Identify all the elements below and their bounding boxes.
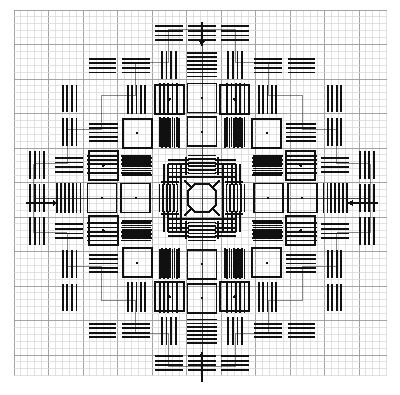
stitch-bar-horizontal (87, 172, 117, 174)
stitch-bar-horizontal (287, 168, 317, 170)
stitch-bar-vertical (233, 118, 235, 148)
stitch-bar-vertical (267, 85, 269, 115)
stitch-bar-horizontal (252, 157, 282, 159)
stitch-bar-horizontal (254, 336, 282, 338)
stitch-bar-vertical (237, 248, 239, 278)
stitch-bar-horizontal (121, 240, 151, 242)
stitch-bar-vertical (34, 151, 36, 179)
stitch-bar-vertical (176, 117, 178, 147)
stitch-bar-vertical (163, 164, 165, 185)
stitch-dot (102, 164, 105, 167)
stitch-bar-vertical (368, 217, 370, 245)
stitch-bar-vertical (239, 283, 241, 313)
stitch-bar-vertical (170, 317, 172, 345)
stitch-bar-horizontal (121, 172, 151, 174)
stitch-bar-horizontal (89, 271, 119, 273)
stitch-bar-horizontal (286, 271, 316, 273)
stitch-bar-vertical (231, 249, 233, 279)
stitch-bar-vertical (271, 85, 273, 115)
stitch-bar-vertical (165, 118, 167, 148)
stitch-bar-vertical (176, 211, 178, 232)
stitch-bar-horizontal (215, 163, 236, 165)
stitch-bar-vertical (43, 217, 45, 245)
stitch-bar-vertical (331, 284, 333, 312)
stitch-bar-vertical (364, 217, 366, 245)
stitch-bar-horizontal (89, 67, 117, 69)
stitch-dot (102, 229, 105, 232)
stitch-bar-vertical (239, 83, 241, 113)
stitch-bar-horizontal (253, 231, 283, 233)
stitch-bar-horizontal (121, 155, 151, 157)
stitch-bar-horizontal (253, 163, 283, 165)
stitch-bar-vertical (131, 85, 133, 115)
stitch-bar-vertical (331, 250, 333, 278)
stitch-bar-horizontal (122, 229, 152, 231)
stitch-bar-horizontal (168, 231, 189, 233)
stitch-dot (168, 295, 171, 298)
stitch-bar-horizontal (155, 369, 183, 371)
stitch-bar-vertical (275, 282, 277, 312)
stitch-bar-vertical (163, 283, 165, 313)
stitch-bar-vertical (244, 117, 246, 147)
stitch-bar-horizontal (89, 336, 117, 338)
stitch-bar-horizontal (122, 233, 152, 235)
stitch-bar-vertical (222, 164, 224, 185)
stitch-bar-vertical (226, 83, 228, 113)
stitch-bar-vertical (140, 85, 142, 115)
stitch-bar-vertical (231, 283, 233, 313)
stitch-bar-vertical (340, 284, 342, 312)
stitch-dot (168, 98, 171, 101)
stitch-bar-vertical (172, 83, 174, 113)
stitch-bar-horizontal (288, 58, 316, 60)
stitch-bar-vertical (167, 117, 169, 147)
stitch-bar-horizontal (221, 360, 249, 362)
stitch-bar-vertical (359, 217, 361, 245)
stitch-bar-horizontal (87, 240, 117, 242)
stitch-bar-horizontal (87, 168, 117, 170)
stitch-bar-horizontal (89, 258, 119, 260)
stitch-bar-vertical (229, 118, 231, 148)
stitch-bar-horizontal (215, 227, 236, 229)
stitch-bar-vertical (327, 250, 329, 278)
stitch-bar-horizontal (286, 267, 316, 269)
stitch-bar-vertical (373, 184, 375, 212)
stitch-bar-vertical (340, 118, 342, 146)
stitch-bar-horizontal (221, 25, 249, 27)
stitch-bar-vertical (180, 211, 182, 232)
stitch-bar-vertical (136, 282, 138, 312)
stitch-bar-vertical (224, 248, 226, 278)
stitch-bar-horizontal (253, 168, 283, 170)
stitch-bar-vertical (237, 51, 239, 79)
stitch-bar-vertical (227, 164, 229, 185)
stitch-bar-horizontal (254, 67, 282, 69)
stitch-bar-vertical (172, 249, 174, 279)
stitch-bar-vertical (258, 85, 260, 115)
stitch-bar-horizontal (221, 30, 249, 32)
stitch-bar-horizontal (287, 159, 317, 161)
stitch-bar-vertical (144, 282, 146, 312)
stitch-bar-vertical (169, 118, 171, 148)
stitch-bar-horizontal (122, 161, 152, 163)
stitch-bar-vertical (76, 284, 78, 312)
stitch-bar-vertical (131, 282, 133, 312)
stitch-bar-vertical (226, 249, 228, 279)
stitch-dot (266, 132, 269, 135)
stitch-bar-vertical (163, 211, 165, 232)
stitch-bar-vertical (167, 249, 169, 279)
stitch-bar-vertical (244, 83, 246, 113)
stitch-bar-vertical (167, 211, 169, 232)
stitch-bar-horizontal (215, 168, 236, 170)
stitch-bar-horizontal (155, 360, 183, 362)
stitch-bar-horizontal (122, 323, 150, 325)
stitch-bar-vertical (327, 85, 329, 113)
stitch-bar-vertical (161, 118, 163, 148)
stitch-bar-vertical (231, 164, 233, 185)
stitch-bar-horizontal (89, 267, 119, 269)
stitch-bar-horizontal (89, 140, 119, 142)
stitch-bar-vertical (336, 284, 338, 312)
stitch-bar-vertical (239, 211, 241, 232)
stitch-bar-vertical (226, 283, 228, 313)
stitch-bar-horizontal (89, 136, 119, 138)
stitch-bar-vertical (373, 151, 375, 179)
embroidery-chart (0, 0, 400, 395)
